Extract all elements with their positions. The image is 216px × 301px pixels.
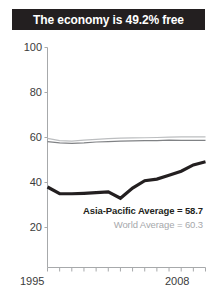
chart-container: The economy is 49.2% free 100 80 60 40 2… — [0, 0, 216, 301]
annotation-asia-pacific-average: Asia-Pacific Average = 58.7 — [83, 205, 203, 216]
x-tick-marks — [48, 268, 206, 272]
plot-area — [0, 0, 216, 301]
series-line-country-score — [48, 162, 206, 198]
annotation-world-average: World Average = 60.3 — [114, 219, 203, 230]
series-lines — [48, 137, 206, 198]
axis-lines — [48, 48, 206, 268]
plot-svg — [0, 0, 216, 301]
